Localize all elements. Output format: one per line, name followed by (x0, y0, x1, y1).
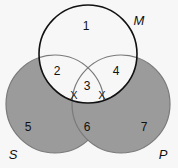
label-p: P (159, 147, 168, 162)
region-1: 1 (83, 19, 90, 33)
region-7: 7 (141, 120, 148, 134)
region-5: 5 (25, 120, 32, 134)
label-m: M (134, 13, 145, 28)
venn-diagram: 1 2 3 4 5 6 7 X X M S P (0, 0, 178, 168)
x-mark-left: X (70, 89, 78, 101)
region-3: 3 (84, 79, 91, 93)
region-2: 2 (54, 64, 61, 78)
label-s: S (9, 147, 18, 162)
x-mark-right: X (98, 89, 106, 101)
region-4: 4 (113, 64, 120, 78)
region-6: 6 (84, 120, 91, 134)
